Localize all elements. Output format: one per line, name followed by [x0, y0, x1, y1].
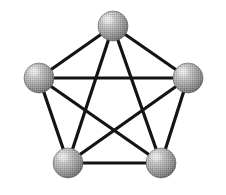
graph-node-right — [173, 63, 203, 93]
graph-node-bottom-right — [146, 148, 176, 178]
sphere-highlight-top — [103, 16, 114, 24]
sphere-halftone-top — [98, 11, 127, 40]
graph-node-top — [98, 11, 128, 41]
sphere-highlight-bottom-right — [151, 153, 162, 161]
graph-edge-left-to-bottom-right — [39, 78, 161, 163]
sphere-highlight-left — [29, 68, 40, 76]
complete-graph-k5-diagram — [0, 0, 226, 195]
graph-edge-top-to-bottom-left — [68, 26, 113, 163]
sphere-highlight-right — [178, 68, 189, 76]
sphere-halftone-left — [24, 63, 53, 92]
graph-edge-top-to-bottom-right — [113, 26, 161, 163]
node-layer — [24, 11, 203, 178]
sphere-halftone-bottom-right — [146, 148, 175, 177]
graph-node-left — [24, 63, 54, 93]
sphere-halftone-right — [173, 63, 202, 92]
graph-edge-right-to-bottom-left — [68, 78, 188, 163]
graph-node-bottom-left — [53, 148, 83, 178]
edge-layer — [39, 26, 188, 163]
sphere-highlight-bottom-left — [58, 153, 69, 161]
sphere-halftone-bottom-left — [53, 148, 82, 177]
figure-container — [0, 0, 226, 195]
